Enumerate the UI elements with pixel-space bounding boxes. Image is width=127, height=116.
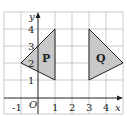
- y-axis-label: y: [28, 11, 35, 22]
- label-p: P: [42, 52, 50, 65]
- x-axis-arrow-icon: [117, 96, 123, 101]
- y-tick-2: 2: [28, 58, 34, 69]
- x-tick-1: 1: [52, 102, 58, 113]
- origin-label: O: [29, 99, 37, 110]
- y-axis-arrow-icon: [36, 12, 41, 18]
- x-axis-label: x: [115, 102, 121, 113]
- coordinate-diagram: y x 4 3 2 1 -1 O 1 2 3 4 P Q: [0, 0, 127, 116]
- x-tick-3: 3: [86, 102, 92, 113]
- x-tick-neg1: -1: [12, 102, 22, 113]
- x-tick-4: 4: [103, 102, 109, 113]
- label-q: Q: [96, 52, 106, 65]
- y-tick-1: 1: [28, 75, 34, 86]
- x-tick-2: 2: [69, 102, 75, 113]
- y-tick-4: 4: [28, 24, 34, 35]
- y-tick-3: 3: [28, 41, 34, 52]
